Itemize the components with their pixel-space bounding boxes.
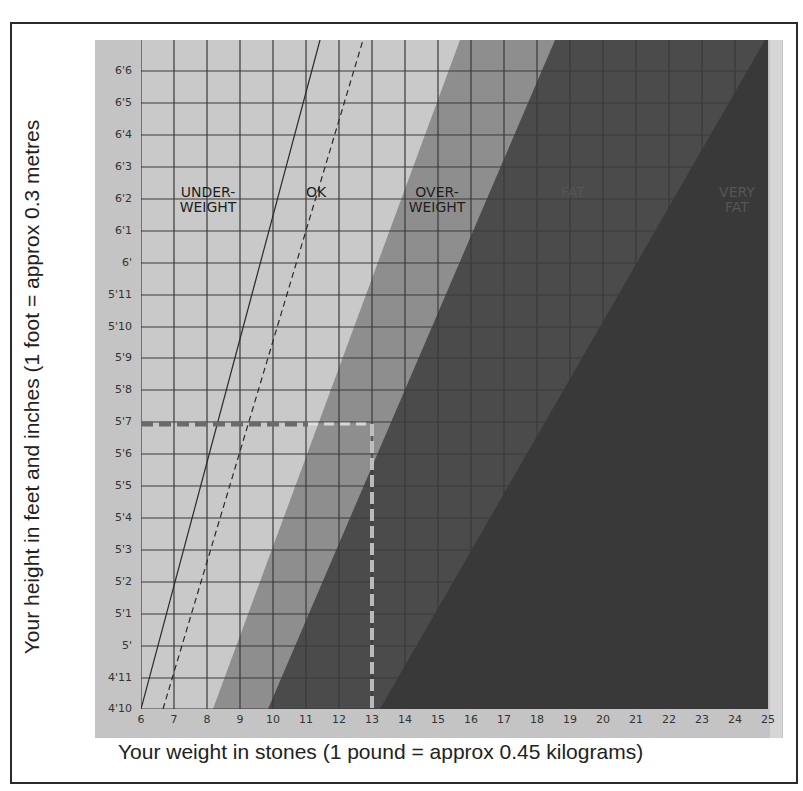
x-tick: 14 xyxy=(393,713,417,726)
x-tick: 24 xyxy=(723,713,747,726)
y-tick: 5'1 xyxy=(96,607,132,620)
y-tick: 4'11 xyxy=(96,671,132,684)
y-tick: 5'9 xyxy=(96,351,132,364)
zone-label-line: VERY xyxy=(712,185,762,200)
zone-label-line: WEIGHT xyxy=(396,200,478,215)
x-tick: 7 xyxy=(162,713,186,726)
x-tick: 10 xyxy=(261,713,285,726)
zone-label-line: WEIGHT xyxy=(165,200,251,215)
x-tick: 20 xyxy=(591,713,615,726)
x-tick: 11 xyxy=(294,713,318,726)
zone-label-line: OK xyxy=(296,185,336,200)
y-tick: 6' xyxy=(96,256,132,269)
zone-label-line: FAT xyxy=(712,200,762,215)
x-tick: 25 xyxy=(756,713,780,726)
zone-label-line: FAT xyxy=(548,185,598,200)
y-tick: 5'11 xyxy=(96,288,132,301)
x-axis-label: Your weight in stones (1 pound = approx … xyxy=(118,740,643,764)
y-tick: 5'8 xyxy=(96,383,132,396)
x-tick: 16 xyxy=(459,713,483,726)
x-tick: 6 xyxy=(129,713,153,726)
y-tick: 6'6 xyxy=(96,64,132,77)
x-tick: 18 xyxy=(525,713,549,726)
y-tick: 5' xyxy=(96,639,132,652)
x-tick: 21 xyxy=(624,713,648,726)
y-tick: 5'4 xyxy=(96,511,132,524)
y-tick: 5'7 xyxy=(96,415,132,428)
y-tick: 5'5 xyxy=(96,479,132,492)
x-tick: 19 xyxy=(558,713,582,726)
x-tick: 23 xyxy=(690,713,714,726)
x-tick: 8 xyxy=(195,713,219,726)
zone-label-line: OVER- xyxy=(396,185,478,200)
y-tick: 5'3 xyxy=(96,543,132,556)
x-tick: 17 xyxy=(492,713,516,726)
x-tick: 22 xyxy=(657,713,681,726)
y-tick: 6'2 xyxy=(96,192,132,205)
x-tick: 9 xyxy=(228,713,252,726)
x-tick: 13 xyxy=(360,713,384,726)
zone-label-ok: OK xyxy=(296,185,336,200)
y-tick: 4'10 xyxy=(96,702,132,715)
y-tick: 5'10 xyxy=(96,320,132,333)
y-tick: 5'2 xyxy=(96,575,132,588)
zone-label-overweight: OVER- WEIGHT xyxy=(396,185,478,215)
y-tick: 5'6 xyxy=(96,447,132,460)
y-tick: 6'5 xyxy=(96,96,132,109)
zone-label-underweight: UNDER- WEIGHT xyxy=(165,185,251,215)
zone-label-very-fat: VERY FAT xyxy=(712,185,762,215)
y-tick: 6'3 xyxy=(96,160,132,173)
x-tick: 12 xyxy=(327,713,351,726)
y-tick: 6'1 xyxy=(96,224,132,237)
x-tick: 15 xyxy=(426,713,450,726)
zone-label-fat: FAT xyxy=(548,185,598,200)
y-tick: 6'4 xyxy=(96,128,132,141)
zone-label-line: UNDER- xyxy=(165,185,251,200)
y-axis-label: Your height in feet and inches (1 foot =… xyxy=(20,107,44,667)
